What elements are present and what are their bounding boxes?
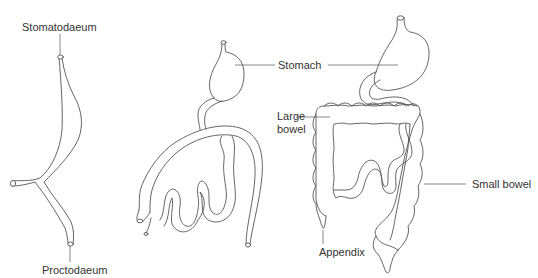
label-large-bowel-line2: bowel [277, 123, 306, 135]
appendix-shape [316, 204, 323, 228]
stage-2-rotating-gut [137, 41, 263, 247]
branch-opening [10, 181, 15, 187]
stage-3-adult-gut [235, 16, 466, 273]
proctodaeum-opening [68, 242, 74, 246]
stomach-shape [374, 18, 429, 90]
gut-development-diagram [0, 0, 538, 278]
stage-1-primitive-gut [10, 34, 81, 262]
label-large-bowel-line1: Large [277, 110, 305, 122]
label-proctodaeum: Proctodaeum [42, 264, 107, 276]
label-small-bowel: Small bowel [472, 178, 531, 190]
label-appendix: Appendix [319, 246, 365, 258]
large-bowel-outer [316, 105, 420, 251]
label-stomach: Stomach [278, 59, 321, 71]
stomatodaeum-opening [58, 55, 64, 59]
label-stomatodaeum: Stomatodaeum [22, 21, 97, 33]
